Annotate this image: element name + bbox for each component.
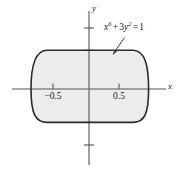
figure-canvas: x6+3y2=1 x y −0.5 0.5 (0, 0, 184, 172)
curve-equation-annotation: x6+3y2=1 (104, 23, 144, 33)
x-tick-label-neg-0-5: −0.5 (38, 92, 68, 102)
curve-region (31, 50, 149, 122)
y-axis-label: y (92, 4, 96, 13)
x-tick-label-pos-0-5: 0.5 (107, 92, 131, 102)
x-axis-label: x (168, 82, 172, 91)
equation-rhs: 1 (139, 22, 144, 32)
plot-svg (0, 0, 184, 172)
